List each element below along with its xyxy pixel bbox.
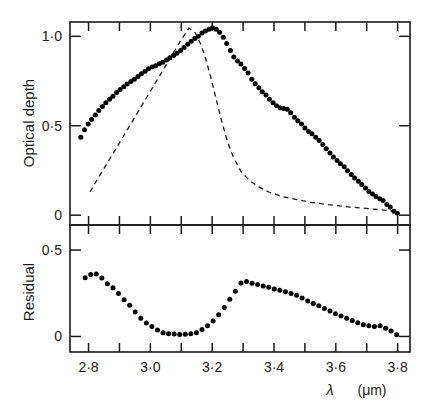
data-point <box>344 316 349 321</box>
data-point <box>199 327 204 332</box>
data-point <box>289 291 294 296</box>
data-point <box>227 297 232 302</box>
data-point <box>194 330 199 335</box>
data-point <box>263 92 268 97</box>
data-point <box>105 281 110 286</box>
data-point <box>228 48 233 53</box>
data-point <box>138 316 143 321</box>
xtick-label: 3·0 <box>140 359 160 375</box>
residual-ytick-label: 0 <box>54 328 62 344</box>
data-point <box>372 324 377 329</box>
data-point <box>224 41 229 46</box>
data-point <box>100 104 105 109</box>
optical-depth-model-curve <box>90 28 398 211</box>
data-point <box>221 35 226 40</box>
data-point <box>333 311 338 316</box>
residual-ytick-labels: 0·50 <box>42 242 62 344</box>
data-point <box>103 100 108 105</box>
data-point <box>359 182 364 187</box>
chart-svg: 00·51·0 Optical depth 0·50 2·83·03·23·43… <box>0 0 432 408</box>
data-point <box>78 135 83 140</box>
residual-ticks <box>70 225 410 352</box>
data-point <box>172 332 177 337</box>
xtick-label: 3·6 <box>326 359 346 375</box>
residual-axis-title: Residual <box>20 263 37 321</box>
data-point <box>305 299 310 304</box>
data-point <box>255 282 260 287</box>
data-point <box>378 323 383 328</box>
optical-depth-ticks <box>70 22 410 225</box>
data-point <box>395 211 400 216</box>
xtick-label: 2·8 <box>78 359 98 375</box>
data-point <box>366 323 371 328</box>
data-point <box>256 85 261 90</box>
residual-xtick-labels: 2·83·03·23·43·63·8 <box>78 359 408 375</box>
data-point <box>242 66 247 71</box>
micron-unit-label: (μm) <box>357 382 386 398</box>
data-point <box>345 168 350 173</box>
residual-ytick-label: 0·5 <box>42 242 62 258</box>
optical-depth-ytick-labels: 00·51·0 <box>42 28 62 223</box>
xtick-label: 3·2 <box>202 359 222 375</box>
data-point <box>267 97 272 102</box>
model-fit-dashed-curve <box>90 28 398 211</box>
data-point <box>327 150 332 155</box>
data-point <box>238 280 243 285</box>
data-point <box>302 125 307 130</box>
data-point <box>394 332 399 337</box>
data-point <box>383 326 388 331</box>
data-point <box>238 62 243 67</box>
data-point <box>317 138 322 143</box>
data-point <box>177 332 182 337</box>
data-point <box>320 142 325 147</box>
residual-data-points <box>83 271 400 337</box>
panel-residual: 0·50 2·83·03·23·43·63·8 Residual <box>20 225 410 375</box>
data-point <box>155 327 160 332</box>
data-point <box>144 320 149 325</box>
optical-depth-ytick-label: 0·5 <box>42 118 62 134</box>
data-point <box>342 164 347 169</box>
data-point <box>350 318 355 323</box>
data-point <box>389 328 394 333</box>
data-point <box>355 320 360 325</box>
data-point <box>381 198 386 203</box>
data-point <box>93 113 98 118</box>
data-point <box>110 285 115 290</box>
data-point <box>249 77 254 82</box>
data-point <box>266 285 271 290</box>
data-point <box>89 117 94 122</box>
data-point <box>231 54 236 59</box>
data-point <box>316 303 321 308</box>
data-point <box>250 281 255 286</box>
data-point <box>217 30 222 35</box>
data-point <box>205 323 210 328</box>
optical-depth-axis-title: Optical depth <box>20 79 37 167</box>
residual-plot-frame <box>70 225 410 352</box>
data-point <box>331 155 336 160</box>
optical-depth-ytick-label: 1·0 <box>42 28 62 44</box>
data-point <box>188 331 193 336</box>
data-point <box>299 121 304 126</box>
data-point <box>161 330 166 335</box>
lambda-symbol: λ <box>325 381 333 398</box>
data-point <box>300 296 305 301</box>
data-point <box>261 283 266 288</box>
data-point <box>388 205 393 210</box>
optical-depth-ytick-label: 0 <box>54 207 62 223</box>
data-point <box>216 312 221 317</box>
figure-container: 00·51·0 Optical depth 0·50 2·83·03·23·43… <box>0 0 432 408</box>
data-point <box>311 301 316 306</box>
data-point <box>149 324 154 329</box>
data-point <box>211 318 216 323</box>
data-point <box>253 81 258 86</box>
xaxis-title-group: λ (μm) <box>325 381 386 398</box>
xtick-label: 3·8 <box>388 359 408 375</box>
data-point <box>283 289 288 294</box>
data-point <box>339 314 344 319</box>
data-point <box>322 306 327 311</box>
data-point <box>110 94 115 99</box>
data-point <box>277 288 282 293</box>
data-point <box>99 276 104 281</box>
data-point <box>116 291 121 296</box>
data-point <box>244 279 249 284</box>
